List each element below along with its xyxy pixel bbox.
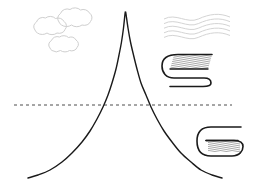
glyph-lower-hatch-fill: [208, 141, 240, 152]
glyph-upper-hatch-fill: [170, 55, 212, 69]
figure-root: [0, 0, 255, 189]
figure-canvas: [0, 0, 255, 189]
